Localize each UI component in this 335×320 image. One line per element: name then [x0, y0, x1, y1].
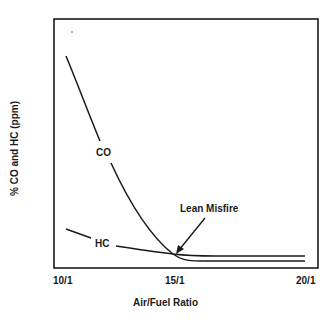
- x-tick-20: 20/1: [296, 275, 316, 286]
- lean-misfire-label: Lean Misfire: [180, 203, 239, 214]
- x-tick-10: 10/1: [53, 275, 73, 286]
- lean-misfire-arrow-shaft: [179, 218, 205, 250]
- plot-frame: [54, 19, 318, 268]
- speck: [71, 31, 73, 33]
- y-axis-label: % CO and HC (ppm): [9, 101, 20, 196]
- hc-curve-left: [66, 229, 91, 238]
- co-curve-upper: [66, 56, 100, 141]
- co-label: CO: [96, 147, 111, 158]
- x-tick-15: 15/1: [165, 275, 185, 286]
- hc-label: HC: [95, 238, 109, 249]
- emissions-chart: CO HC Lean Misfire 10/1 15/1 20/1 Air/Fu…: [0, 0, 335, 320]
- hc-curve-right: [116, 246, 305, 256]
- x-axis-label: Air/Fuel Ratio: [133, 297, 198, 308]
